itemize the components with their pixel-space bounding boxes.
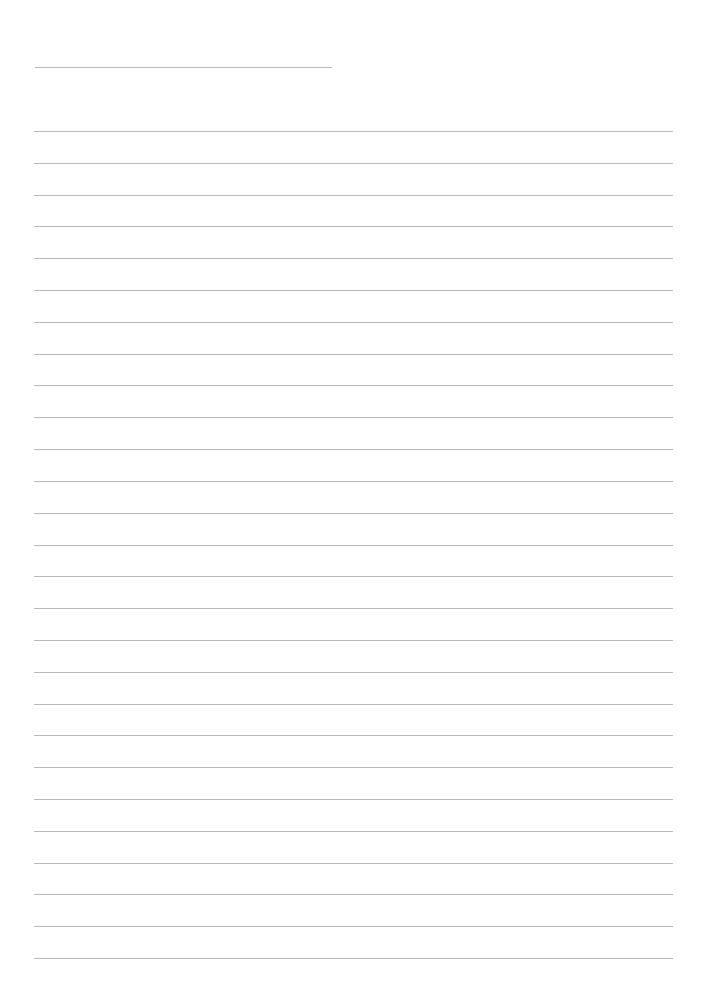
ruled-line xyxy=(34,513,673,514)
ruled-line xyxy=(34,545,673,546)
ruled-line xyxy=(34,704,673,705)
ruled-line xyxy=(34,163,673,164)
ruled-line xyxy=(34,767,673,768)
ruled-line xyxy=(34,672,673,673)
ruled-line xyxy=(34,195,673,196)
ruled-line xyxy=(34,799,673,800)
ruled-line xyxy=(34,735,673,736)
ruled-line xyxy=(34,640,673,641)
ruled-line xyxy=(34,354,673,355)
ruled-line xyxy=(34,290,673,291)
ruled-line xyxy=(34,481,673,482)
ruled-line xyxy=(34,926,673,927)
ruled-line xyxy=(34,131,673,132)
ruled-line xyxy=(34,958,673,959)
ruled-line xyxy=(34,894,673,895)
ruled-line xyxy=(34,608,673,609)
ruled-line xyxy=(34,449,673,450)
lined-paper-sheet xyxy=(0,0,702,992)
ruled-line xyxy=(34,322,673,323)
ruled-line xyxy=(34,863,673,864)
ruled-line xyxy=(34,385,673,386)
header-line xyxy=(35,67,332,68)
ruled-line xyxy=(34,226,673,227)
ruled-line xyxy=(34,831,673,832)
ruled-line xyxy=(34,417,673,418)
ruled-line xyxy=(34,576,673,577)
ruled-line xyxy=(34,258,673,259)
